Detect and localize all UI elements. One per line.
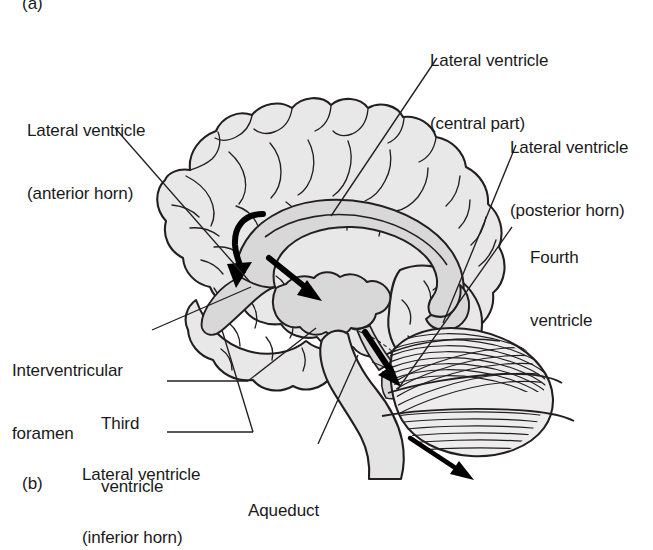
label-fourth-ventricle: Fourth ventricle [530,205,592,373]
label-line-2: ventricle [530,310,592,331]
label-aqueduct: Aqueduct [248,458,319,550]
label-line-1: Aqueduct [248,500,319,521]
label-lateral-ventricle-anterior-horn: Lateral ventricle (anterior horn) [27,78,145,246]
label-line-1: Lateral ventricle [510,137,628,158]
label-line-1: Lateral ventricle [82,464,200,485]
label-line-2: (inferior horn) [82,527,200,548]
panel-a-tag: (a) [22,0,43,14]
label-line-1: Lateral ventricle [27,120,145,141]
label-lateral-ventricle-inferior-horn: Lateral ventricle (inferior horn) [82,422,200,550]
label-line-1: Lateral ventricle [430,50,548,71]
label-line-2: (anterior horn) [27,183,145,204]
label-line-1: Fourth [530,247,592,268]
